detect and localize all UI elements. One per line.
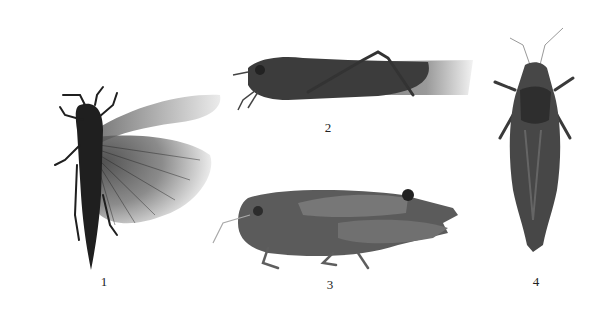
specimen-4-image (485, 20, 585, 260)
specimen-2-image (228, 40, 478, 115)
specimen-1-image (25, 75, 225, 275)
specimen-3-label: 3 (320, 277, 340, 293)
specimen-2-label: 2 (318, 120, 338, 136)
specimen-3-image (208, 183, 468, 273)
specimen-4-label: 4 (526, 274, 546, 290)
figure-plate: 1 2 (0, 0, 601, 310)
specimen-1-label: 1 (94, 274, 114, 290)
